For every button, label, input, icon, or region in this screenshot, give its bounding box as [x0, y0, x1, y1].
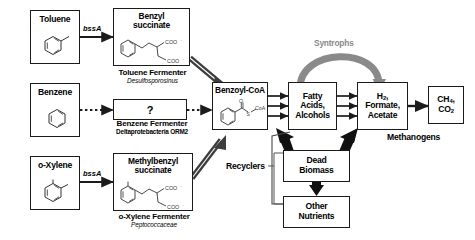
- intermediate-box-methylbenzyl-succinate: Methylbenzyl succinate COO - COO -: [113, 153, 193, 211]
- formate-label: Formate,: [365, 100, 400, 110]
- h2-formate-acetate-box: H2, Formate, Acetate: [357, 82, 408, 130]
- methane-co2-box: CH4, CO2: [428, 86, 464, 124]
- benzene-fermenter-name: Benzene Fermenter: [117, 119, 188, 128]
- substrate-label-benzene: Benzene: [38, 88, 72, 98]
- dead-biomass-box: Dead Biomass: [283, 150, 350, 182]
- svg-text:-: -: [181, 37, 183, 42]
- acetate-label: Acetate: [368, 110, 398, 120]
- svg-text:-: -: [183, 56, 185, 61]
- substrate-label-oxylene: o-Xylene: [38, 161, 72, 171]
- benzoyl-coa-icon: O S CoA: [217, 99, 267, 130]
- svg-text:O: O: [239, 99, 243, 104]
- substrate-box-toluene: Toluene: [30, 10, 80, 64]
- fermenter-caption-oxylene: o-Xylene Fermenter Peptococcaceae: [98, 212, 210, 229]
- co2-label: CO2: [438, 104, 454, 114]
- intermediate-box-benzyl-succinate: Benzyl succinate COO - COO -: [113, 8, 190, 66]
- recyclers-label: Recyclers: [226, 161, 265, 171]
- intermediate-box-benzene-unknown: ?: [113, 99, 187, 120]
- oxylene-fermenter-name: o-Xylene Fermenter: [118, 212, 189, 221]
- benzylsuccinate-label-line2: succinate: [133, 20, 170, 30]
- fermenter-caption-toluene: Toluene Fermenter Desulfosporosinus: [100, 68, 205, 85]
- svg-text:COO: COO: [167, 204, 179, 210]
- o-xylene-ring-icon: [39, 179, 75, 207]
- arrows-benzoylcoa-to-fattyacids: [268, 96, 288, 116]
- unknown-pathway-label: ?: [147, 104, 154, 116]
- svg-text:COO: COO: [167, 58, 179, 64]
- fatty-acids-line2: Acids,: [300, 100, 325, 110]
- benzoyl-coa-label: Benzoyl-CoA: [215, 86, 265, 95]
- toluene-ring-icon: [39, 33, 75, 61]
- recyclers-bracket: [268, 153, 283, 204]
- other-nutrients-line1: Other: [306, 201, 328, 211]
- pathway-diagram: Toluene Benzene o-Xylene bssA bs: [0, 0, 475, 240]
- other-nutrients-box: Other Nutrients: [283, 196, 350, 228]
- fatty-acids-line3: Alcohols: [295, 110, 330, 120]
- benzene-fermenter-organism: Deltaprotebacteria ORM2: [97, 128, 207, 135]
- arrow-methylbenzylsuccinate-to-benzoylcoa: [192, 135, 226, 178]
- svg-text:COO: COO: [165, 185, 177, 191]
- arrows-fattyacids-to-h2formate: [337, 96, 357, 116]
- benzylsuccinate-icon: COO - COO -: [117, 34, 189, 66]
- methanogens-label: Methanogens: [387, 132, 440, 142]
- fatty-acids-box: Fatty Acids, Alcohols: [288, 82, 337, 130]
- gene-label-bssa-toluene: bssA: [83, 24, 101, 33]
- dead-biomass-line1: Dead: [306, 155, 326, 165]
- toluene-fermenter-name: Toluene Fermenter: [118, 68, 186, 77]
- oxylene-fermenter-organism: Peptococcaceae: [98, 221, 210, 228]
- syntrophs-label: Syntrophs: [314, 38, 354, 48]
- svg-text:CoA: CoA: [255, 105, 266, 111]
- substrate-label-toluene: Toluene: [40, 15, 71, 25]
- svg-text:-: -: [181, 183, 183, 188]
- svg-text:-: -: [183, 202, 185, 207]
- toluene-fermenter-organism: Desulfosporosinus: [100, 77, 205, 84]
- fatty-acids-line1: Fatty: [303, 91, 323, 101]
- svg-text:COO: COO: [165, 39, 177, 45]
- benzoyl-coa-box: Benzoyl-CoA O S CoA: [212, 82, 268, 130]
- other-nutrients-line2: Nutrients: [299, 211, 335, 221]
- methylbenzylsuccinate-icon: COO - COO -: [117, 179, 192, 211]
- dead-biomass-line2: Biomass: [299, 165, 333, 175]
- fermenter-caption-benzene: Benzene Fermenter Deltaprotebacteria ORM…: [97, 119, 207, 136]
- gene-label-bssa-oxylene: bssA: [83, 169, 101, 178]
- benzene-ring-icon: [44, 106, 70, 134]
- h2-label: H2,: [377, 91, 388, 101]
- methylbenzylsuccinate-label-line2: succinate: [135, 165, 172, 175]
- substrate-box-benzene: Benzene: [30, 83, 80, 137]
- methane-label: CH4,: [437, 94, 454, 104]
- svg-text:S: S: [247, 112, 250, 117]
- substrate-box-oxylene: o-Xylene: [30, 156, 80, 210]
